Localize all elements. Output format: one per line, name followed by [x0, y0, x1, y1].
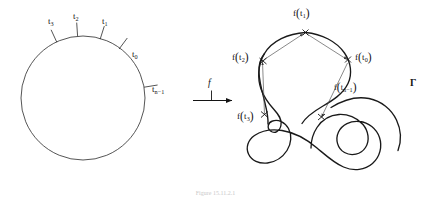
label-t3: t3 — [48, 17, 54, 26]
label-f-t1-close: ) — [306, 7, 310, 19]
label-f-tn-1: f(tn−1) — [334, 81, 357, 93]
label-t3-sub: 3 — [51, 20, 54, 27]
label-f-t0-open: ( — [358, 51, 362, 63]
label-t0: t0 — [132, 50, 138, 59]
label-tn-1: tn−1 — [152, 85, 164, 94]
tick-t1 — [100, 26, 104, 39]
label-t0-sub: 0 — [135, 53, 138, 60]
label-f-t2-open: ( — [235, 51, 239, 63]
label-tn-1-sub: n−1 — [155, 88, 165, 95]
label-f-t0-close: ) — [368, 51, 372, 63]
gamma-curve-group — [247, 30, 400, 170]
parameter-circle — [21, 36, 145, 160]
label-gamma-text: Γ — [410, 77, 416, 88]
label-f-t1-open: ( — [296, 7, 300, 19]
label-f-t2-close: ) — [245, 51, 249, 63]
label-map-f: f — [208, 79, 211, 89]
figure-caption-text: Figure 15.11.2.1 — [196, 190, 235, 196]
tick-t3 — [51, 30, 57, 42]
gamma-curve-right-arm — [331, 98, 400, 151]
label-f-t0: f(t0) — [355, 51, 372, 63]
label-t1: t1 — [102, 17, 108, 26]
label-gamma: Γ — [410, 78, 416, 88]
tick-t2 — [77, 23, 78, 37]
chord-t3-t2 — [263, 62, 265, 115]
label-f-tn-1-open: ( — [337, 81, 341, 93]
vertex-mark-t0 — [345, 57, 351, 63]
label-f-t2: f(t2) — [232, 51, 249, 63]
figure-caption: Figure 15.11.2.1 — [0, 190, 431, 196]
vertex-mark-tn-1 — [318, 114, 325, 120]
figure-container: t3 t2 t1 t0 tn−1 f f(t1) f(t2) f(t0) f(t… — [0, 0, 431, 197]
label-t2: t2 — [73, 12, 79, 21]
label-f-t3-open: ( — [240, 110, 244, 122]
label-f-tn-1-sub: n−1 — [343, 86, 353, 93]
label-f-t3-close: ) — [250, 110, 254, 122]
figure-drawing — [0, 0, 431, 197]
label-t2-sub: 2 — [76, 15, 79, 22]
label-t1-sub: 1 — [105, 20, 108, 27]
label-map-f-text: f — [208, 78, 211, 88]
map-arrow-group — [193, 91, 232, 101]
parameter-circle-group — [21, 23, 158, 160]
tick-t0 — [119, 38, 127, 49]
label-f-t3: f(t3) — [237, 110, 254, 122]
label-f-tn-1-close: ) — [353, 81, 357, 93]
label-f-t1: f(t1) — [293, 7, 310, 19]
